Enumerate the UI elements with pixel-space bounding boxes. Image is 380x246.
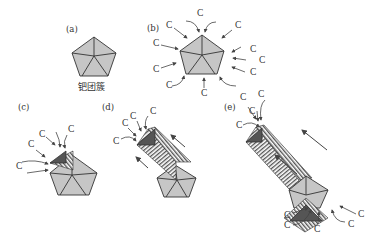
svg-text:C: C <box>236 120 242 130</box>
svg-text:C: C <box>240 92 246 102</box>
panel-d-label: (d) <box>102 102 114 112</box>
panel-e: (e) C C C C C C C C C <box>224 89 364 234</box>
pd-cluster-pentagon <box>180 35 224 74</box>
svg-text:C: C <box>348 219 354 229</box>
svg-text:C: C <box>39 129 45 139</box>
svg-text:C: C <box>314 224 320 234</box>
svg-text:C: C <box>235 20 241 30</box>
svg-text:C: C <box>153 38 159 48</box>
pd-cluster-caption: 钯团簇 <box>78 81 105 92</box>
svg-text:C: C <box>250 67 256 77</box>
panel-a: (a) 钯团簇 <box>66 24 116 92</box>
svg-text:C: C <box>249 106 255 116</box>
svg-text:C: C <box>122 118 128 128</box>
svg-text:C: C <box>201 88 207 98</box>
panel-c: (c) C C C C <box>16 102 97 195</box>
svg-text:C: C <box>259 55 265 65</box>
pd-cluster-growth-diagram: (a) 钯团簇 (b) C C C C C C C C C C <box>0 0 380 246</box>
svg-text:C: C <box>358 209 364 219</box>
pd-cluster-growing <box>50 151 97 195</box>
carbon-atoms-top: C C C C <box>236 89 264 130</box>
svg-text:C: C <box>28 139 34 149</box>
svg-text:C: C <box>197 8 203 18</box>
svg-text:C: C <box>284 220 290 230</box>
svg-text:C: C <box>250 44 256 54</box>
svg-text:C: C <box>130 111 136 121</box>
panel-d: (d) C C C C <box>102 102 196 197</box>
svg-text:C: C <box>284 210 290 220</box>
panel-e-label: (e) <box>224 102 236 112</box>
svg-text:C: C <box>153 64 159 74</box>
pd-cluster-with-nanofiber <box>137 127 196 197</box>
svg-text:C: C <box>113 136 119 146</box>
svg-text:C: C <box>166 20 172 30</box>
svg-text:C: C <box>258 89 264 99</box>
panel-c-label: (c) <box>18 102 29 112</box>
svg-text:C: C <box>16 161 22 171</box>
panel-a-label: (a) <box>66 24 78 34</box>
svg-text:C: C <box>166 80 172 90</box>
panel-b: (b) C C C C C C C C C C <box>147 8 265 98</box>
svg-text:C: C <box>68 124 74 134</box>
svg-text:C: C <box>150 106 156 116</box>
pd-cluster-pentagon <box>72 37 116 76</box>
panel-b-label: (b) <box>147 23 159 33</box>
